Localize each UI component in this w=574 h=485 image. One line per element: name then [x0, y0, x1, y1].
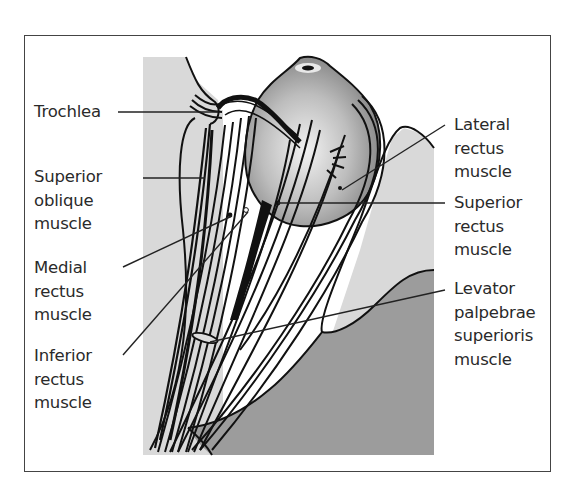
label-superior-rectus-muscle: Superior rectus muscle [454, 191, 522, 262]
label-inferior-rectus-muscle: Inferior rectus muscle [34, 344, 92, 415]
label-trochlea: Trochlea [34, 100, 101, 124]
label-levator-palpebrae-superioris-muscle: Levator palpebrae superioris muscle [454, 277, 536, 371]
label-lateral-rectus-muscle: Lateral rectus muscle [454, 113, 512, 184]
label-medial-rectus-muscle: Medial rectus muscle [34, 256, 92, 327]
label-superior-oblique-muscle: Superior oblique muscle [34, 165, 102, 236]
eyeball [245, 57, 380, 226]
